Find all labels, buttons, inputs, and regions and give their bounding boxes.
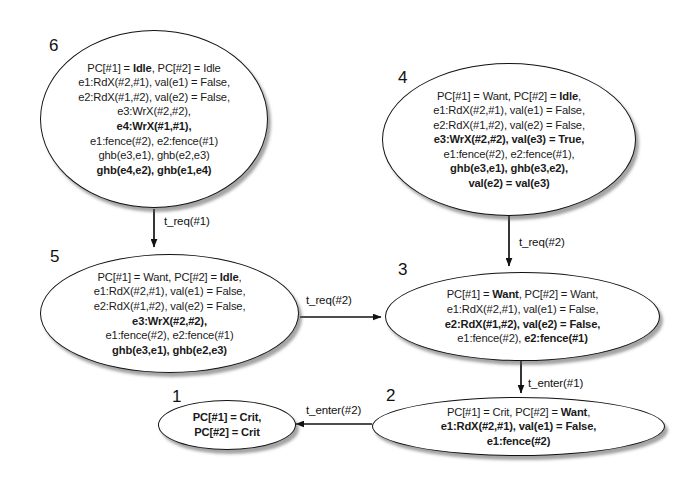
state-text: e1:fence(#2), bbox=[457, 332, 524, 344]
state-node-4[interactable]: PC[#1] = Want, PC[#2] = Idle,e1:RdX(#2,#… bbox=[382, 63, 636, 216]
state-text-emphasized: e3:WrX(#2,#2), bbox=[132, 315, 207, 327]
state-node-line: ghb(e3,e1), ghb(e2,e3) bbox=[41, 343, 298, 358]
state-node-line: PC[#1] = Want, PC[#2] = Idle, bbox=[41, 270, 298, 285]
state-text: PC[#1] = bbox=[87, 62, 133, 74]
state-node-line: val(e2) = val(e3) bbox=[383, 176, 635, 191]
edge-label-t-req-1: t_req(#1) bbox=[164, 215, 210, 227]
edge-label-t-req-2-from-4: t_req(#2) bbox=[519, 236, 565, 248]
state-node-line: e1:fence(#2) bbox=[373, 434, 664, 449]
state-text: ghb(e3,e1), ghb(e2,e3) bbox=[98, 149, 209, 161]
state-text: , bbox=[578, 90, 581, 102]
state-text: , PC[#2] = Want, bbox=[519, 288, 599, 300]
state-text-emphasized: ghb(e3,e1), ghb(e3,e2), bbox=[450, 162, 568, 174]
state-text-emphasized: PC[#1] = Crit, bbox=[193, 411, 261, 423]
state-text-emphasized: e3:WrX(#2,#2), val(e3) = True, bbox=[434, 133, 584, 145]
state-text-emphasized: e1:fence(#2) bbox=[487, 435, 551, 447]
state-node-1-body: PC[#1] = Crit,PC[#2] = Crit bbox=[159, 410, 295, 439]
state-text: e1:RdX(#2,#1), val(e1) = False, bbox=[78, 76, 230, 88]
edge-label-t-enter-1: t_enter(#1) bbox=[528, 377, 583, 389]
state-text: e2:RdX(#1,#2), val(e2) = False, bbox=[94, 300, 246, 312]
node-number-5: 5 bbox=[50, 247, 59, 267]
state-text: e1:RdX(#2,#1), val(e1) = False, bbox=[433, 104, 585, 116]
node-number-6: 6 bbox=[49, 36, 58, 56]
state-text-emphasized: Want bbox=[561, 406, 587, 418]
state-text: , bbox=[238, 271, 241, 283]
state-text-emphasized: Idle bbox=[133, 62, 152, 74]
state-node-line: e3:WrX(#2,#2), bbox=[41, 314, 298, 329]
state-text: PC[#1] = Want, PC[#2] = bbox=[437, 90, 559, 102]
state-node-line: e2:RdX(#1,#2), val(e2) = False, bbox=[41, 299, 298, 314]
state-text: e1:fence(#2), e2:fence(#1), bbox=[444, 148, 575, 160]
state-node-line: e1:RdX(#2,#1), val(e1) = False, bbox=[386, 302, 659, 317]
state-node-line: e2:RdX(#1,#2), val(e2) = False, bbox=[383, 118, 635, 133]
state-node-line: e3:WrX(#2,#2), val(e3) = True, bbox=[383, 132, 635, 147]
state-node-line: e1:fence(#2), e2:fence(#1), bbox=[383, 147, 635, 162]
state-node-5-body: PC[#1] = Want, PC[#2] = Idle,e1:RdX(#2,#… bbox=[41, 270, 298, 357]
state-node-line: e1:RdX(#2,#1), val(e1) = False, bbox=[41, 284, 298, 299]
state-node-line: PC[#1] = Idle, PC[#2] = Idle bbox=[41, 61, 267, 76]
state-text-emphasized: ghb(e4,e2), ghb(e1,e4) bbox=[97, 164, 212, 176]
state-text: , PC[#2] = Idle bbox=[152, 62, 221, 74]
state-node-line: PC[#1] = Crit, bbox=[159, 410, 295, 425]
state-text-emphasized: ghb(e3,e1), ghb(e2,e3) bbox=[112, 344, 227, 356]
state-text: e3:WrX(#2,#2), bbox=[117, 105, 191, 117]
state-node-line: ghb(e3,e1), ghb(e3,e2), bbox=[383, 161, 635, 176]
node-number-4: 4 bbox=[398, 68, 407, 88]
state-text: PC[#1] = bbox=[447, 288, 493, 300]
state-text: e1:fence(#2), e2:fence(#1) bbox=[90, 135, 218, 147]
state-node-3[interactable]: PC[#1] = Want, PC[#2] = Want,e1:RdX(#2,#… bbox=[385, 272, 660, 361]
state-node-5[interactable]: PC[#1] = Want, PC[#2] = Idle,e1:RdX(#2,#… bbox=[40, 254, 299, 373]
state-node-6[interactable]: PC[#1] = Idle, PC[#2] = Idlee1:RdX(#2,#1… bbox=[40, 30, 268, 208]
state-text: e2:RdX(#1,#2), val(e2) = False, bbox=[78, 91, 230, 103]
state-node-line: e1:RdX(#2,#1), val(e1) = False, bbox=[383, 103, 635, 118]
state-text: e1:RdX(#2,#1), val(e1) = False, bbox=[94, 285, 246, 297]
state-text-emphasized: val(e2) = val(e3) bbox=[468, 177, 549, 189]
edge-label-t-req-2-from-5: t_req(#2) bbox=[306, 294, 352, 306]
state-transition-diagram: 6 PC[#1] = Idle, PC[#2] = Idlee1:RdX(#2,… bbox=[0, 0, 690, 485]
state-text-emphasized: e1:RdX(#2,#1), val(e1) = False, bbox=[441, 420, 596, 432]
node-number-1: 1 bbox=[172, 387, 181, 407]
state-node-4-body: PC[#1] = Want, PC[#2] = Idle,e1:RdX(#2,#… bbox=[383, 89, 635, 191]
state-node-line: e2:RdX(#1,#2), val(e2) = False, bbox=[41, 90, 267, 105]
state-node-line: PC[#1] = Crit, PC[#2] = Want, bbox=[373, 405, 664, 420]
state-node-6-body: PC[#1] = Idle, PC[#2] = Idlee1:RdX(#2,#1… bbox=[41, 61, 267, 178]
state-node-line: PC[#1] = Want, PC[#2] = Want, bbox=[386, 287, 659, 302]
state-text: , bbox=[587, 406, 590, 418]
state-text-emphasized: e2:fence(#1) bbox=[524, 332, 588, 344]
state-node-line: PC[#2] = Crit bbox=[159, 425, 295, 440]
state-node-1[interactable]: PC[#1] = Crit,PC[#2] = Crit bbox=[158, 400, 296, 450]
state-node-2-body: PC[#1] = Crit, PC[#2] = Want,e1:RdX(#2,#… bbox=[373, 405, 664, 449]
node-number-3: 3 bbox=[398, 260, 407, 280]
edge-label-t-enter-2: t_enter(#2) bbox=[306, 404, 361, 416]
state-text-emphasized: e2:RdX(#1,#2), val(e2) = False, bbox=[445, 318, 600, 330]
node-number-2: 2 bbox=[386, 386, 395, 406]
state-text-emphasized: Idle bbox=[220, 271, 239, 283]
state-node-line: ghb(e3,e1), ghb(e2,e3) bbox=[41, 148, 267, 163]
state-text-emphasized: Want bbox=[492, 288, 518, 300]
state-node-line: e1:fence(#2), e2:fence(#1) bbox=[41, 328, 298, 343]
state-node-line: e1:RdX(#2,#1), val(e1) = False, bbox=[41, 75, 267, 90]
state-node-line: ghb(e4,e2), ghb(e1,e4) bbox=[41, 163, 267, 178]
state-node-line: e1:RdX(#2,#1), val(e1) = False, bbox=[373, 419, 664, 434]
state-node-line: e1:fence(#2), e2:fence(#1) bbox=[41, 134, 267, 149]
state-text: e1:RdX(#2,#1), val(e1) = False, bbox=[447, 303, 599, 315]
state-node-line: e4:WrX(#1,#1), bbox=[41, 119, 267, 134]
state-text: PC[#1] = Crit, PC[#2] = bbox=[447, 406, 561, 418]
state-node-line: e2:RdX(#1,#2), val(e2) = False, bbox=[386, 317, 659, 332]
state-text-emphasized: e4:WrX(#1,#1), bbox=[117, 120, 192, 132]
state-node-line: e1:fence(#2), e2:fence(#1) bbox=[386, 331, 659, 346]
state-node-3-body: PC[#1] = Want, PC[#2] = Want,e1:RdX(#2,#… bbox=[386, 287, 659, 345]
state-node-2[interactable]: PC[#1] = Crit, PC[#2] = Want,e1:RdX(#2,#… bbox=[372, 397, 665, 456]
state-node-line: PC[#1] = Want, PC[#2] = Idle, bbox=[383, 89, 635, 104]
state-node-line: e3:WrX(#2,#2), bbox=[41, 104, 267, 119]
state-text: e2:RdX(#1,#2), val(e2) = False, bbox=[433, 119, 585, 131]
state-text: e1:fence(#2), e2:fence(#1) bbox=[106, 329, 234, 341]
state-text-emphasized: PC[#2] = Crit bbox=[194, 426, 260, 438]
state-text: PC[#1] = Want, PC[#2] = bbox=[98, 271, 220, 283]
state-text-emphasized: Idle bbox=[559, 90, 578, 102]
